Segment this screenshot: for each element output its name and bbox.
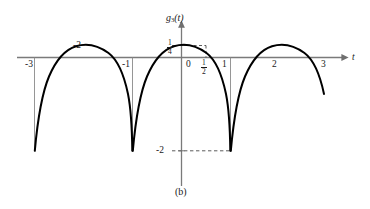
y-tick-label-quarter: 1 4	[167, 39, 173, 55]
plot-svg	[0, 0, 370, 209]
y-axis-label-arg: (t)	[174, 12, 183, 23]
x-tick-label-3: 3	[321, 60, 326, 70]
x-tick-label-0: 0	[186, 60, 191, 70]
x-tick-half-denominator: 2	[201, 67, 207, 76]
x-tick-label-half: 1 2	[201, 59, 207, 75]
x-tick-half-numerator: 1	[201, 59, 207, 67]
y-tick-label-minus2: -2	[156, 146, 164, 156]
y-tick-quarter-numerator: 1	[167, 39, 173, 47]
x-tick-label-2: 2	[272, 60, 277, 70]
figure-caption: (b)	[175, 186, 187, 197]
x-tick-label-minus3: -3	[25, 60, 33, 70]
x-tick-label-1: 1	[222, 60, 227, 70]
y-tick-quarter-denominator: 4	[167, 47, 173, 56]
x-tick-label-minus2: -2	[73, 41, 81, 51]
y-axis-label: g3(t)	[166, 12, 184, 23]
x-axis-label: t	[352, 53, 355, 63]
x-tick-label-minus1: -1	[122, 60, 130, 70]
figure-container: g3(t) t -3 -2 -1 0 1 2 3 1 2 1 4 -2 (b)	[0, 0, 370, 209]
curve-arc-period-minus1	[35, 45, 133, 151]
curve-arc-period-1	[231, 45, 324, 151]
